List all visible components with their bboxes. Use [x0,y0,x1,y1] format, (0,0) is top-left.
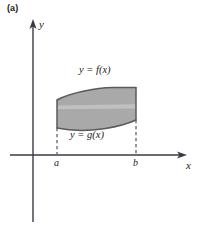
tick-label-b: b [133,158,138,168]
x-axis-label: x [186,160,191,171]
figure-panel: (a) y x a b y = f(x) y = g(x) [0,0,200,225]
curve-label-f: y = f(x) [79,64,111,75]
tick-label-a: a [54,158,59,168]
y-axis-label: y [39,19,44,30]
plot-canvas [0,0,200,225]
curve-label-g: y = g(x) [70,129,104,140]
